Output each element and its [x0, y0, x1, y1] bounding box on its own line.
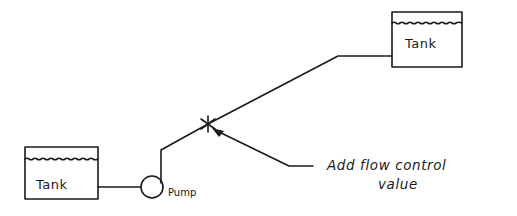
tank-source: Tank — [25, 147, 98, 199]
pump-label: Pump — [168, 187, 196, 198]
leader-line — [215, 130, 313, 166]
tank-destination: Tank — [392, 12, 462, 67]
tank-destination-label: Tank — [404, 36, 437, 51]
process-diagram: Tank Pump Tank Add flow control value — [0, 0, 517, 216]
pump-icon — [141, 176, 163, 198]
annotation-line-2: value — [378, 176, 418, 192]
arrowhead-icon — [212, 128, 224, 137]
liquid-level-icon — [392, 22, 462, 24]
liquid-level-icon — [25, 158, 98, 160]
tank-source-label: Tank — [35, 177, 68, 192]
annotation-line-1: Add flow control — [326, 157, 446, 173]
flow-control-valve-icon — [201, 116, 215, 132]
pump: Pump — [141, 176, 196, 198]
annotation-arrow — [212, 128, 313, 166]
